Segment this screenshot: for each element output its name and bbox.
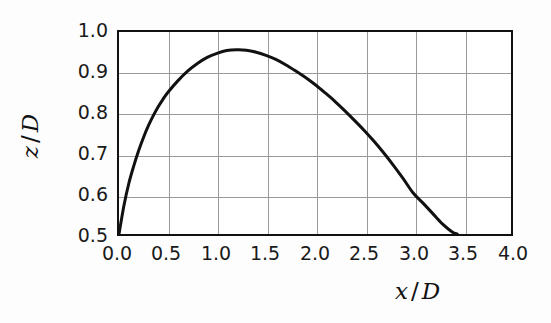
y-tick-label-1.0: 1.0 xyxy=(62,21,108,40)
y-tick-label-0.7: 0.7 xyxy=(62,144,108,163)
y-axis-title-denominator: D xyxy=(17,114,43,132)
y-axis-title-variable: z xyxy=(17,146,43,158)
x-axis-title-variable: x xyxy=(395,278,408,304)
y-axis-title-separator: / xyxy=(17,132,43,146)
data-curve xyxy=(119,32,511,234)
x-axis-title-denominator: D xyxy=(422,278,440,304)
y-tick-label-0.8: 0.8 xyxy=(62,103,108,122)
y-axis-title: z/D xyxy=(0,116,70,156)
y-tick-label-0.9: 0.9 xyxy=(62,62,108,81)
x-tick-label-4.0: 4.0 xyxy=(483,244,543,263)
x-axis-title-separator: / xyxy=(408,278,422,304)
chart-figure: z/D 1.0 0.9 0.8 0.7 0.6 0.5 0.0 0.5 1.0 … xyxy=(0,0,551,323)
x-axis-title: x/D xyxy=(395,278,440,304)
plot-area xyxy=(117,30,513,236)
y-tick-label-0.6: 0.6 xyxy=(62,185,108,204)
